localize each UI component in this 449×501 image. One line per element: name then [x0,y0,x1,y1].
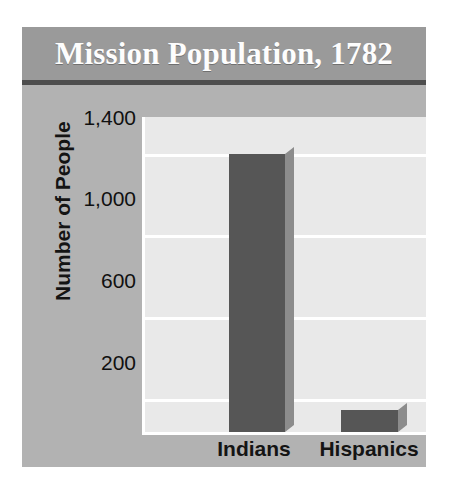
bar-indians-face [229,154,285,432]
y-tick-label-1400: 1,400 [54,107,136,128]
chart-title-band: Mission Population, 1782 [22,27,426,80]
bar-hispanics[interactable] [341,410,398,432]
y-tick-label-1000: 1,000 [54,188,136,209]
y-tick-label-200: 200 [54,352,136,373]
x-tick-label-hispanics: Hispanics [308,437,430,461]
y-tick-label-600: 600 [54,270,136,291]
bar-hispanics-shadow [398,403,407,432]
plot-area [142,117,426,435]
bar-indians[interactable] [229,154,285,432]
x-tick-label-indians: Indians [204,437,304,461]
chart-body: Number of People 1,400 1,000 600 200 Ind… [22,85,426,467]
chart-figure: Mission Population, 1782 Number of Peopl… [22,27,426,467]
page-title: Mission Population, 1782 [55,36,393,72]
bar-indians-shadow [285,147,294,432]
bar-hispanics-face [341,410,398,432]
y-axis-tick-labels: 1,400 1,000 600 200 [40,85,136,467]
x-axis-tick-labels: Indians Hispanics [142,437,426,467]
